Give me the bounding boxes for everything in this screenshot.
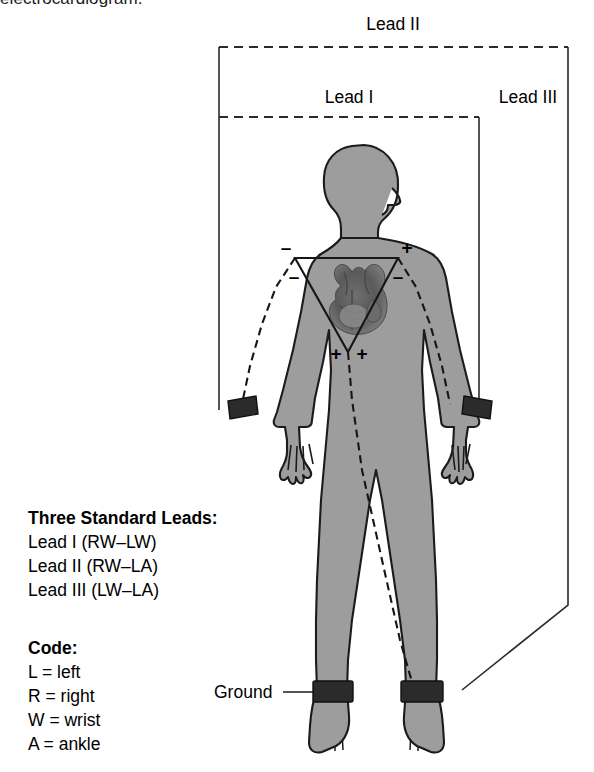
ecg-lead-placement-diagram: Lead II Lead I Lead III [0, 0, 594, 772]
right-ankle-electrode [313, 681, 353, 702]
legend-code-l: L = left [28, 662, 81, 682]
lead-i-label: Lead I [325, 87, 374, 107]
left-ankle-electrode [401, 681, 443, 702]
legend-code-title: Code: [28, 638, 78, 658]
lead-iii-label: Lead III [499, 87, 557, 107]
polarity-left-shoulder-inner: – [289, 266, 300, 287]
legend-lead-i: Lead I (RW–LW) [28, 532, 157, 552]
human-body-figure [274, 145, 480, 753]
legend-code-a: A = ankle [28, 734, 101, 754]
legend-code-w: W = wrist [28, 710, 101, 730]
polarity-apex-left: + [330, 343, 341, 364]
head-profile [324, 145, 400, 243]
legend-code-r: R = right [28, 686, 95, 706]
ground-callout: Ground [214, 682, 313, 702]
polarity-apex-right: + [356, 343, 367, 364]
legend-lead-iii: Lead III (LW–LA) [28, 580, 159, 600]
figure-page: electrocardiogram. Lead II [0, 0, 594, 772]
polarity-right-shoulder-inner: – [393, 266, 404, 287]
heart-illustration [329, 264, 387, 334]
lead-ii-label: Lead II [366, 14, 420, 34]
legend-leads-title: Three Standard Leads: [28, 508, 218, 528]
ground-label: Ground [214, 682, 272, 702]
polarity-left-shoulder-outer: – [281, 237, 292, 258]
legend-standard-leads: Three Standard Leads: Lead I (RW–LW) Lea… [28, 508, 218, 600]
legend-code: Code: L = left R = right W = wrist A = a… [28, 638, 101, 754]
right-wrist-electrode [228, 396, 258, 419]
polarity-right-shoulder-outer: + [401, 237, 412, 258]
legend-lead-ii: Lead II (RW–LA) [28, 556, 158, 576]
lead-ii-bracket-right-arm [462, 47, 568, 690]
